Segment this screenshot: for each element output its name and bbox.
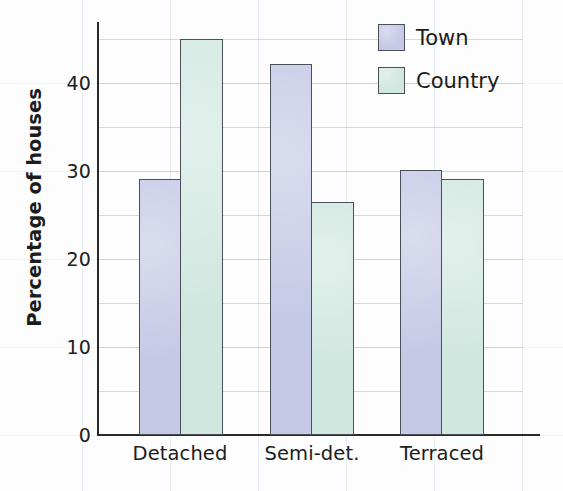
y-tick-label: 10	[11, 336, 91, 358]
y-axis-title: Percentage of houses	[23, 78, 46, 338]
x-tick-label-semi-det: Semi-det.	[265, 442, 360, 465]
legend-label-town: Town	[416, 26, 469, 50]
legend-item-town: Town	[378, 24, 499, 51]
bar-chart: 40 30 20 10 0 Percentage of houses Detac…	[0, 0, 563, 491]
bar-country-terraced	[441, 179, 484, 435]
chart-legend: Town Country	[378, 24, 499, 94]
x-tick-label-terraced: Terraced	[400, 442, 484, 465]
legend-swatch-icon-country	[378, 67, 405, 94]
legend-swatch-icon-town	[378, 24, 405, 51]
y-tick-label: 0	[11, 424, 91, 446]
legend-label-country: Country	[416, 69, 499, 93]
bar-town-terraced	[400, 170, 442, 435]
y-axis-tick-labels: 40 30 20 10 0	[8, 0, 91, 491]
x-tick-label-detached: Detached	[133, 442, 228, 465]
bar-town-semi-det	[270, 64, 312, 435]
bar-town-detached	[139, 179, 181, 435]
legend-item-country: Country	[378, 67, 499, 94]
bar-country-semi-det	[311, 202, 354, 435]
bar-country-detached	[180, 39, 223, 435]
